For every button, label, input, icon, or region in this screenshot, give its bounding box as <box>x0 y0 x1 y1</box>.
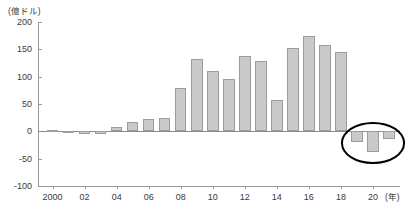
y-tick-label: 50 <box>2 100 32 109</box>
bar-chart: (億ドル) 200150100500-50-100 20000204060810… <box>0 0 413 213</box>
y-tick-label: 100 <box>2 73 32 82</box>
bar <box>271 100 283 131</box>
bar <box>191 59 203 131</box>
bar <box>175 88 187 132</box>
x-tick-label: 2000 <box>36 193 70 202</box>
x-tick-label: 02 <box>68 193 102 202</box>
bar <box>47 130 59 132</box>
bar <box>303 36 315 132</box>
x-tick-label: 08 <box>164 193 198 202</box>
x-tick-label: 14 <box>260 193 294 202</box>
bar <box>239 56 251 131</box>
x-tick-label: 04 <box>100 193 134 202</box>
y-tick-label: 0 <box>2 127 32 136</box>
bar <box>319 45 331 131</box>
y-tick-label: 200 <box>2 18 32 27</box>
x-tick-label: 16 <box>292 193 326 202</box>
bar <box>95 131 107 133</box>
x-tick-label: 06 <box>132 193 166 202</box>
bar <box>79 131 91 134</box>
bar <box>207 71 219 131</box>
y-axis-line <box>38 22 39 186</box>
bar <box>143 119 155 131</box>
x-axis-unit-label: (年) <box>385 193 400 202</box>
highlight-ellipse <box>341 122 404 163</box>
bar <box>159 118 171 132</box>
bar <box>127 122 139 131</box>
y-axis-unit-label: (億ドル) <box>8 4 41 16</box>
bar <box>287 48 299 131</box>
x-tick-label: 10 <box>196 193 230 202</box>
x-tick-label: 12 <box>228 193 262 202</box>
y-tick-label: 150 <box>2 45 32 54</box>
x-axis-line <box>38 186 400 187</box>
x-tick-label: 18 <box>324 193 358 202</box>
bar <box>255 61 267 131</box>
y-tick-label: -50 <box>2 155 32 164</box>
bar <box>335 52 347 132</box>
bar <box>63 131 75 133</box>
bar <box>223 79 235 131</box>
y-tick-label: -100 <box>2 182 32 191</box>
bar <box>111 127 123 131</box>
